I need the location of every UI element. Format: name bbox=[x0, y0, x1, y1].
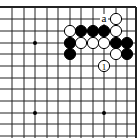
white-stone bbox=[98, 37, 109, 48]
white-stone bbox=[110, 25, 121, 36]
move-number: 1 bbox=[102, 62, 107, 72]
go-board-diagram: a1 bbox=[0, 0, 139, 138]
black-stone bbox=[75, 25, 86, 36]
black-stone bbox=[121, 48, 132, 59]
black-stone bbox=[64, 37, 75, 48]
star-point bbox=[33, 111, 37, 115]
star-point bbox=[33, 41, 37, 45]
black-stone bbox=[98, 25, 109, 36]
white-stone bbox=[110, 13, 121, 24]
star-point bbox=[102, 111, 106, 115]
white-stone bbox=[87, 37, 98, 48]
black-stone bbox=[87, 25, 98, 36]
white-stone bbox=[64, 25, 75, 36]
annotation-label: a bbox=[102, 12, 107, 24]
white-stone bbox=[75, 37, 86, 48]
white-stone bbox=[110, 48, 121, 59]
black-stone bbox=[121, 37, 132, 48]
black-stone bbox=[64, 48, 75, 59]
black-stone bbox=[110, 37, 121, 48]
